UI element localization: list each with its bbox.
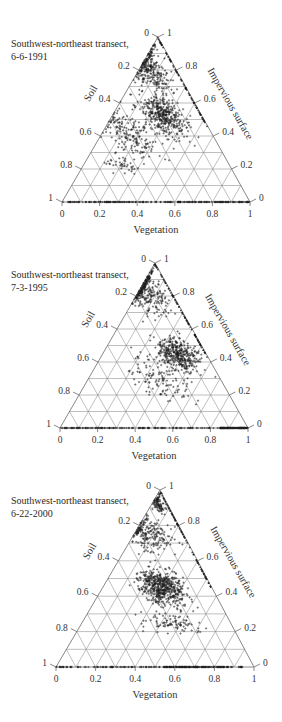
- ternary-panel-2000: Southwest-northeast transect, 6-22-2000 …: [0, 0, 282, 722]
- tick-label-impervious: 0.8: [188, 516, 200, 526]
- tick-label-vegetation: 0.2: [90, 674, 102, 684]
- tick-label-soil: 0.2: [118, 516, 130, 526]
- tick-label-soil: 0.4: [98, 552, 110, 562]
- axis-label-soil: Soil: [80, 541, 98, 561]
- tick-label-vegetation: 0.8: [208, 674, 220, 684]
- tick-label-impervious: 0.2: [244, 623, 256, 633]
- tick-label-soil: 0.8: [56, 623, 68, 633]
- axis-ticks: 0010.20.20.80.40.40.60.60.60.40.80.80.21…: [42, 481, 268, 684]
- tick-label-vegetation: 0.6: [169, 674, 181, 684]
- tick-label-impervious: 0.6: [207, 552, 219, 562]
- tick-label-soil: 0.6: [77, 587, 89, 597]
- tick-label-vegetation: 0: [54, 674, 59, 684]
- tick-label-impervious: 1: [169, 481, 174, 491]
- tick-label-impervious: 0: [263, 658, 268, 668]
- data-points: [55, 492, 243, 669]
- ternary-plot: 0010.20.20.80.40.40.60.60.60.40.80.80.21…: [0, 0, 282, 722]
- tick-label-soil: 1: [42, 658, 47, 668]
- tick-label-impervious: 0.4: [225, 587, 237, 597]
- tick-label-vegetation: 1: [252, 674, 257, 684]
- tick-label-vegetation: 0.4: [129, 674, 141, 684]
- axis-label-vegetation: Vegetation: [133, 689, 179, 700]
- tick-label-soil: 0: [146, 481, 151, 491]
